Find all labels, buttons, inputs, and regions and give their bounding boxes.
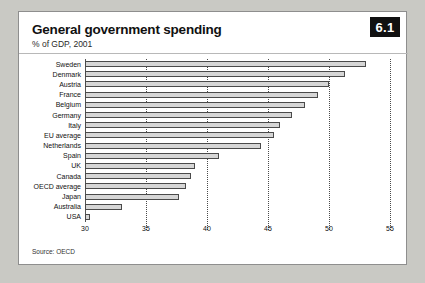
bar (85, 173, 191, 179)
category-label: Germany (52, 112, 81, 119)
figure-panel: 6.1 General government spending % of GDP… (18, 11, 407, 265)
chart-number-badge: 6.1 (370, 17, 400, 37)
header-divider (19, 53, 408, 54)
bar (85, 61, 366, 67)
chart-title: General government spending (32, 22, 222, 37)
x-tick-label: 45 (264, 225, 272, 232)
gridline (329, 59, 330, 230)
chart-number-label: 6.1 (376, 20, 395, 35)
source-note: Source: OECD (32, 248, 75, 255)
category-label: UK (71, 162, 81, 169)
bar (85, 194, 179, 200)
bar (85, 92, 318, 98)
x-tick-label: 35 (142, 225, 150, 232)
category-label: Denmark (53, 71, 81, 78)
category-label: EU average (44, 132, 81, 139)
category-label: Canada (56, 173, 81, 180)
category-label: USA (67, 213, 81, 220)
bar (85, 102, 305, 108)
category-label: Netherlands (43, 142, 81, 149)
category-label: Australia (54, 203, 81, 210)
bar (85, 112, 292, 118)
category-label: Japan (62, 193, 81, 200)
x-tick-label: 50 (325, 225, 333, 232)
bar (85, 143, 261, 149)
category-label: Sweden (56, 61, 81, 68)
gridline (390, 59, 391, 230)
bar (85, 183, 186, 189)
chart-subtitle: % of GDP, 2001 (32, 39, 92, 49)
bar (85, 81, 329, 87)
x-tick-label: 55 (386, 225, 394, 232)
category-label: OECD average (34, 183, 81, 190)
bar (85, 204, 122, 210)
category-label: Austria (59, 81, 81, 88)
bar (85, 153, 219, 159)
bar (85, 132, 274, 138)
category-label: Spain (63, 152, 81, 159)
plot-area: SwedenDenmarkAustriaFranceBelgiumGermany… (85, 59, 390, 222)
bar (85, 163, 195, 169)
x-tick-label: 30 (81, 225, 89, 232)
category-label: Italy (68, 122, 81, 129)
category-label: Belgium (56, 101, 81, 108)
bar (85, 122, 280, 128)
category-label: France (59, 91, 81, 98)
bar (85, 71, 345, 77)
x-tick-label: 40 (203, 225, 211, 232)
bar (85, 214, 90, 220)
